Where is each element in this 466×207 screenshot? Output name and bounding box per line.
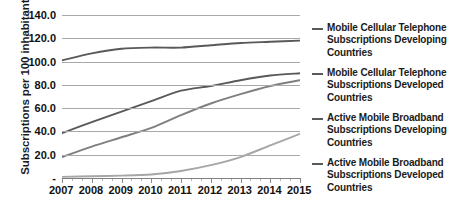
y-axis-tick-label: 100.0: [6, 57, 56, 67]
legend-line-swatch: [312, 73, 323, 75]
legend-label-line: Mobile Cellular Telephone: [327, 22, 447, 34]
x-axis-tick-mark: [300, 179, 301, 183]
x-axis-tick-mark: [181, 179, 182, 183]
x-axis-minor-tick-mark: [82, 179, 83, 181]
x-axis-minor-tick-mark: [231, 179, 232, 181]
x-axis-minor-tick-mark: [250, 179, 251, 181]
legend-label-line: Active Mobile Broadband: [327, 112, 447, 124]
legend-label-line: Countries: [327, 47, 447, 59]
x-axis-tick-mark: [151, 179, 152, 183]
x-axis-tick-label: 2015: [287, 184, 311, 196]
x-axis-minor-tick-mark: [260, 179, 261, 181]
y-axis-tick-label: 140.0: [6, 10, 56, 20]
x-axis-tick-label: 2007: [49, 184, 73, 196]
legend-label-line: Subscriptions Developing: [327, 124, 447, 136]
chart-legend: Mobile Cellular TelephoneSubscriptions D…: [312, 10, 464, 200]
data-series-layer: [62, 15, 300, 178]
legend-line-swatch: [312, 163, 323, 165]
x-axis-tick-labels: 200720082009201020112012201320142015: [56, 184, 308, 204]
legend-line-swatch: [312, 28, 323, 30]
line-chart: Subscriptions per 100 inhabitants 140.01…: [0, 0, 466, 207]
x-axis-tick-mark: [62, 179, 63, 183]
x-axis-tick-label: 2012: [198, 184, 222, 196]
gridline: [62, 108, 300, 109]
gridline: [62, 155, 300, 156]
legend-line-swatch: [312, 118, 323, 120]
gridline: [62, 15, 300, 16]
x-axis-minor-tick-mark: [201, 179, 202, 181]
legend-item-4[interactable]: Active Mobile BroadbandSubscriptions Dev…: [312, 157, 464, 194]
series-line-1: [62, 41, 300, 61]
plot-area: [62, 15, 300, 178]
x-axis-tick-mark: [270, 179, 271, 183]
x-axis-tick-mark: [241, 179, 242, 183]
x-axis-tick-label: 2010: [138, 184, 162, 196]
gridline: [62, 38, 300, 39]
x-axis-tick-label: 2009: [109, 184, 133, 196]
y-axis-tick-label: 80.0: [6, 80, 56, 90]
x-axis-minor-tick-mark: [171, 179, 172, 181]
x-axis-minor-tick-mark: [161, 179, 162, 181]
legend-item-label: Mobile Cellular TelephoneSubscriptions D…: [327, 67, 446, 104]
x-axis-tick-mark: [211, 179, 212, 183]
x-axis-tick-label: 2008: [79, 184, 103, 196]
x-axis-tick-label: 2011: [168, 184, 192, 196]
x-axis-minor-tick-mark: [221, 179, 222, 181]
x-axis-minor-tick-mark: [102, 179, 103, 181]
x-axis-minor-tick-mark: [112, 179, 113, 181]
x-axis-minor-tick-mark: [72, 179, 73, 181]
x-axis-tick-mark: [122, 179, 123, 183]
y-axis-tick-label: -: [6, 173, 56, 183]
legend-label-line: Subscriptions Developed: [327, 169, 444, 181]
y-axis-tick-label: 20.0: [6, 150, 56, 160]
legend-item-label: Active Mobile BroadbandSubscriptions Dev…: [327, 157, 444, 194]
legend-item-2[interactable]: Mobile Cellular TelephoneSubscriptions D…: [312, 67, 464, 104]
y-axis-tick-labels: 140.0120.0100.080.060.040.020.0-: [4, 0, 56, 207]
x-axis-tick-label: 2014: [257, 184, 281, 196]
x-axis-minor-tick-mark: [290, 179, 291, 181]
x-axis-minor-tick-mark: [131, 179, 132, 181]
series-line-2: [62, 73, 300, 133]
legend-item-1[interactable]: Mobile Cellular TelephoneSubscriptions D…: [312, 22, 464, 59]
x-axis-minor-tick-mark: [280, 179, 281, 181]
legend-item-3[interactable]: Active Mobile BroadbandSubscriptions Dev…: [312, 112, 464, 149]
x-axis-minor-tick-mark: [141, 179, 142, 181]
legend-label-line: Subscriptions Developed: [327, 79, 446, 91]
gridline: [62, 131, 300, 132]
gridline: [62, 62, 300, 63]
legend-label-line: Countries: [327, 92, 446, 104]
x-axis-minor-tick-mark: [191, 179, 192, 181]
legend-label-line: Mobile Cellular Telephone: [327, 67, 446, 79]
series-line-3: [62, 80, 300, 157]
legend-label-line: Countries: [327, 137, 447, 149]
legend-item-label: Active Mobile BroadbandSubscriptions Dev…: [327, 112, 447, 149]
x-axis-tick-label: 2013: [228, 184, 252, 196]
y-axis-tick-label: 120.0: [6, 33, 56, 43]
legend-label-line: Active Mobile Broadband: [327, 157, 444, 169]
legend-item-label: Mobile Cellular TelephoneSubscriptions D…: [327, 22, 447, 59]
legend-label-line: Subscriptions Developing: [327, 34, 447, 46]
x-axis-tick-mark: [92, 179, 93, 183]
y-axis-tick-label: 40.0: [6, 126, 56, 136]
y-axis-tick-label: 60.0: [6, 103, 56, 113]
legend-label-line: Countries: [327, 182, 444, 194]
gridline: [62, 85, 300, 86]
